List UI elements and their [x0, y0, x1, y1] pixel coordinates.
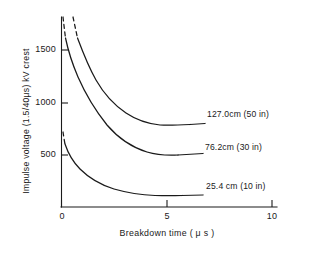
leader-30in — [178, 154, 203, 156]
leader-10in — [182, 195, 203, 196]
x-tick-label-0: 0 — [52, 212, 72, 221]
curve-10in-dashed-extension — [63, 132, 65, 144]
curve-50in — [78, 38, 191, 125]
series-label-10in: 25.4 cm (10 in) — [206, 182, 266, 191]
curve-50in-dashed-extension — [73, 17, 78, 38]
x-tick-label-10: 10 — [262, 212, 282, 221]
curve-30in-dashed-extension — [63, 17, 66, 38]
series-label-30in: 76.2cm (30 in) — [205, 143, 262, 152]
curve-10in — [65, 144, 182, 196]
chart-figure: 1500 1000 500 0 5 10 127.0cm (50 in) 76.… — [0, 0, 311, 255]
leader-50in — [190, 124, 205, 125]
y-axis-title: Impulse voltage (1.5/40μs) kV crest — [21, 31, 31, 211]
series-label-50in: 127.0cm (50 in) — [207, 110, 269, 119]
x-axis-title: Breakdown time ( μ s ) — [61, 228, 273, 238]
curve-30in — [66, 38, 179, 155]
x-tick-label-5: 5 — [157, 212, 177, 221]
